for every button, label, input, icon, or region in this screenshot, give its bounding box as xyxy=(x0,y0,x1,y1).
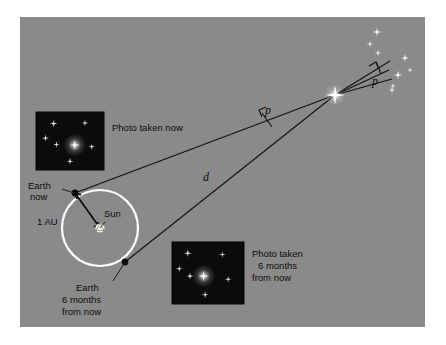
target-star xyxy=(324,84,346,106)
parallax-figure: Photo taken now Photo taken 6 months fro… xyxy=(0,0,446,345)
distance-label: d xyxy=(203,170,210,184)
earth-six-months-label-line1: Earth xyxy=(76,282,99,293)
photo-six-months-label-line3: from now xyxy=(252,272,291,283)
photo-now-label: Photo taken now xyxy=(112,122,183,133)
photo-six-months-label-line1: Photo taken xyxy=(252,248,303,259)
parallax-far-label: p xyxy=(371,74,378,88)
earth-six-months-label-line3: from now xyxy=(62,306,101,317)
one-au-label: 1 AU xyxy=(37,216,58,227)
diagram-canvas: Photo taken now Photo taken 6 months fro… xyxy=(0,0,446,345)
parallax-near-label: p xyxy=(264,103,271,117)
earth-six-months-label-line2: 6 months xyxy=(62,294,101,305)
photo-inset-six-months xyxy=(172,242,244,304)
sun-label: Sun xyxy=(104,208,121,219)
photo-inset-now xyxy=(36,112,104,170)
photo-six-months-label-line2: 6 months xyxy=(258,260,297,271)
earth-now-label-line1: Earth xyxy=(28,180,51,191)
earth-now-label-line2: now xyxy=(30,191,48,202)
